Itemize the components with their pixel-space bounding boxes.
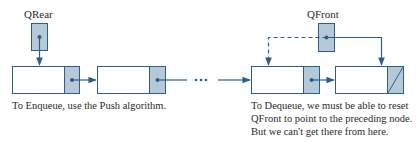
node-3 <box>252 67 320 94</box>
qrear-pointer-box <box>32 24 48 66</box>
qfront-desired-dashed-arrow <box>269 38 327 66</box>
qrear-label: QRear <box>24 8 53 20</box>
qfront-label: QFront <box>307 8 339 20</box>
node-2 <box>98 67 166 94</box>
ellipsis-dots <box>195 79 208 82</box>
node-1 <box>13 67 80 94</box>
dequeue-caption-line-3: But we can't get there from here. <box>251 126 388 139</box>
dequeue-caption-line-1: To Dequeue, we must be able to reset <box>251 100 408 113</box>
dequeue-caption-line-2: QFront to point to the preceding node. <box>251 113 412 126</box>
node-4 <box>336 67 404 94</box>
enqueue-caption: To Enqueue, use the Push algorithm. <box>12 100 166 113</box>
